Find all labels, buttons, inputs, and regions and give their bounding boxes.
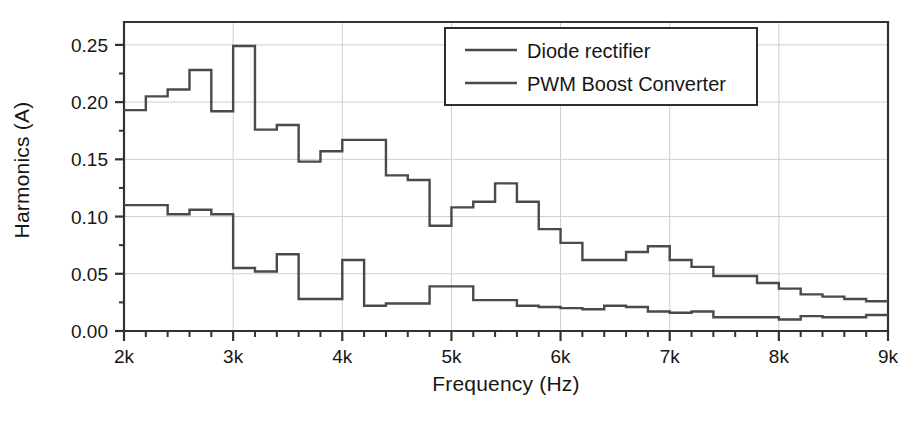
chart-legend[interactable]: Diode rectifierPWM Boost Converter: [445, 28, 757, 105]
x-tick-label: 3k: [223, 346, 244, 367]
legend-label-diode-rectifier: Diode rectifier: [527, 40, 651, 62]
y-tick-label: 0.05: [71, 264, 108, 285]
x-axis-label-container: Frequency (Hz): [124, 372, 888, 396]
x-tick-labels: 2k3k4k5k6k7k8k9k: [114, 346, 899, 367]
x-tick-label: 6k: [551, 346, 572, 367]
series-line-pwm-boost-converter: [124, 205, 888, 319]
x-tick-label: 7k: [660, 346, 681, 367]
x-tick-label: 4k: [332, 346, 353, 367]
x-tick-label: 5k: [441, 346, 462, 367]
y-tick-labels: 0.000.050.100.150.200.25: [71, 35, 108, 342]
x-tick-label: 2k: [114, 346, 135, 367]
harmonics-chart-figure: Harmonics (A) Frequency (Hz) 0.000.050.1…: [0, 0, 921, 426]
y-tick-label: 0.00: [71, 321, 108, 342]
y-tick-label: 0.15: [71, 149, 108, 170]
x-tick-label: 9k: [878, 346, 899, 367]
y-tick-label: 0.25: [71, 35, 108, 56]
y-tick-label: 0.20: [71, 92, 108, 113]
y-axis-label: Harmonics (A): [10, 102, 34, 239]
x-axis-label: Frequency (Hz): [432, 372, 580, 395]
plot-area: 0.000.050.100.150.200.25 2k3k4k5k6k7k8k9…: [0, 0, 921, 426]
y-tick-label: 0.10: [71, 207, 108, 228]
legend-label-pwm-boost-converter: PWM Boost Converter: [527, 73, 726, 95]
y-axis-label-container: Harmonics (A): [0, 0, 44, 340]
x-tick-label: 8k: [769, 346, 790, 367]
